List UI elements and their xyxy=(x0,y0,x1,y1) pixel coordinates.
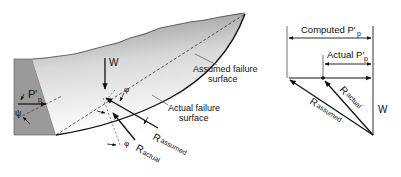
left-figure: P' p ψ W R assumed R actual φ φ Assumed … xyxy=(14,13,258,164)
phi-top-label: φ xyxy=(124,85,129,94)
assumed-surface-label-1: Assumed failure xyxy=(193,64,258,74)
phi-arrow-bottom xyxy=(107,144,116,145)
diagram-canvas: P' p ψ W R assumed R actual φ φ Assumed … xyxy=(0,0,401,177)
r-actual-sub: actual xyxy=(142,149,162,164)
wall-angle-label: ψ xyxy=(15,108,21,118)
r-assumed-sub: assumed xyxy=(160,137,188,157)
actual-surface-label-1: Actual failure xyxy=(168,103,220,113)
computed-sub: p xyxy=(357,30,361,38)
weight-label: W xyxy=(109,57,119,68)
actual-sub: p xyxy=(364,55,368,63)
right-figure: Computed P' p Actual P' p R actual R ass… xyxy=(287,24,388,135)
passive-force-sub: p xyxy=(38,96,42,104)
weight-label-right: W xyxy=(378,104,388,115)
actual-label: Actual P' xyxy=(327,49,364,60)
passive-force-label: P' xyxy=(28,88,37,100)
assumed-surface-label-2: surface xyxy=(208,74,238,84)
phi-bottom-label: φ xyxy=(124,139,129,148)
actual-surface-label-2: surface xyxy=(179,113,209,123)
intersection-dot xyxy=(321,76,325,80)
computed-label: Computed P' xyxy=(301,24,356,35)
